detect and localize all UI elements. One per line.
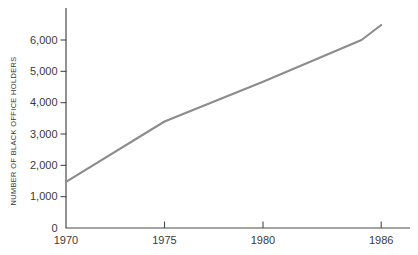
y-tick-label: 6,000 (30, 34, 58, 46)
data-line (66, 25, 381, 182)
y-tick-label: 0 (51, 222, 57, 234)
y-tick-label: 4,000 (30, 96, 58, 108)
x-tick-label: 1975 (152, 234, 176, 246)
y-tick-label: 1,000 (30, 190, 58, 202)
line-chart: NUMBER OF BLACK OFFICE HOLDERS 01,0002,0… (0, 0, 418, 255)
plot-area: 01,0002,0003,0004,0005,0006,000197019751… (0, 0, 418, 255)
y-tick-label: 3,000 (30, 128, 58, 140)
x-tick-label: 1986 (369, 234, 393, 246)
x-tick-label: 1980 (251, 234, 275, 246)
y-tick-label: 5,000 (30, 65, 58, 77)
x-tick-label: 1970 (54, 234, 78, 246)
y-tick-label: 2,000 (30, 159, 58, 171)
